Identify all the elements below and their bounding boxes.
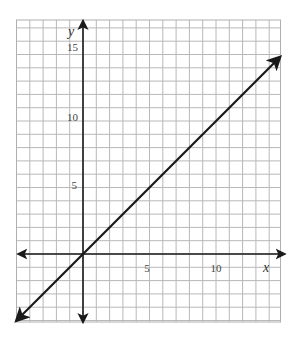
y-axis-label: y bbox=[66, 24, 75, 39]
y-tick-label-10: 10 bbox=[67, 111, 79, 123]
x-tick-label-10: 10 bbox=[211, 262, 223, 274]
x-axis-label: x bbox=[262, 260, 270, 275]
y-tick-label-5: 5 bbox=[72, 179, 78, 191]
x-tick-label-5: 5 bbox=[144, 262, 150, 274]
y-tick-label-15: 15 bbox=[67, 41, 79, 53]
coordinate-plane: 5 10 x 5 10 15 y bbox=[0, 0, 293, 339]
grid-lines bbox=[17, 20, 281, 322]
